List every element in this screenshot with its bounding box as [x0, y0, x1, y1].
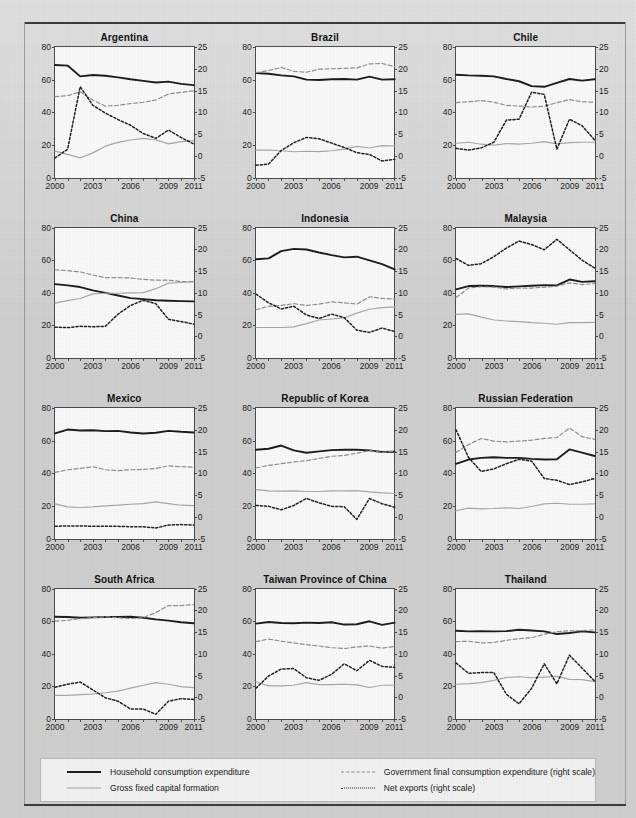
- x-tick: [545, 539, 546, 542]
- series-line: [55, 466, 194, 473]
- y-tick-label-right: 0: [198, 332, 203, 340]
- y-tick-left: [253, 228, 256, 229]
- y-tick-label-right: 20: [198, 606, 207, 614]
- y-tick-right: [394, 156, 397, 157]
- x-tick-label: 2006: [322, 543, 341, 551]
- series-canvas: [55, 228, 194, 359]
- y-tick-left: [453, 621, 456, 622]
- x-tick: [80, 358, 81, 361]
- plot-area: 020406080-505101520252000200320062009201…: [54, 227, 195, 360]
- y-tick-right: [595, 91, 598, 92]
- plot-wrapper: 020406080-505101520252000200320062009201…: [455, 46, 596, 179]
- x-tick: [143, 719, 144, 722]
- x-tick: [319, 178, 320, 181]
- y-tick-label-left: 40: [443, 289, 452, 297]
- y-tick-label-right: 25: [198, 224, 207, 232]
- y-tick-left: [52, 654, 55, 655]
- x-tick: [557, 358, 558, 361]
- y-tick-right: [595, 408, 598, 409]
- series-line: [256, 498, 395, 519]
- legend-label: Government final consumption expenditure…: [384, 767, 595, 777]
- x-tick-label: 2011: [586, 362, 604, 370]
- y-tick-label-right: 15: [198, 87, 207, 95]
- y-tick-right: [394, 69, 397, 70]
- x-tick-label: 2009: [159, 543, 178, 551]
- x-tick: [68, 539, 69, 542]
- y-tick-right: [595, 452, 598, 453]
- y-tick-right: [595, 589, 598, 590]
- y-tick-left: [253, 112, 256, 113]
- plot-wrapper: 020406080-505101520252000200320062009201…: [54, 407, 195, 540]
- y-tick-label-right: 0: [599, 693, 604, 701]
- series-line: [55, 525, 194, 528]
- y-tick-label-right: 0: [398, 693, 403, 701]
- y-tick-left: [253, 47, 256, 48]
- x-tick: [507, 358, 508, 361]
- x-tick: [382, 178, 383, 181]
- y-tick-left: [453, 473, 456, 474]
- chart-panel: South Africa020406080-505101520252000200…: [24, 570, 225, 751]
- series-line: [456, 428, 595, 452]
- x-tick: [268, 358, 269, 361]
- series-line: [55, 682, 194, 714]
- y-tick-left: [253, 506, 256, 507]
- chart-legend: Household consumption expenditureGovernm…: [40, 758, 596, 802]
- x-tick: [545, 719, 546, 722]
- x-tick-label: 2003: [83, 362, 102, 370]
- y-tick-label-left: 60: [42, 437, 51, 445]
- y-tick-label-right: 20: [599, 65, 608, 73]
- x-tick-label: 2000: [447, 723, 466, 731]
- plot-wrapper: 020406080-505101520252000200320062009201…: [255, 588, 396, 721]
- y-tick-label-right: 10: [599, 108, 608, 116]
- x-tick: [344, 358, 345, 361]
- y-tick-label-left: 60: [443, 617, 452, 625]
- y-tick-left: [453, 112, 456, 113]
- y-tick-right: [394, 589, 397, 590]
- panel-grid: Argentina020406080-505101520252000200320…: [24, 28, 626, 750]
- plot-wrapper: 020406080-505101520252000200320062009201…: [54, 588, 195, 721]
- y-tick-right: [595, 632, 598, 633]
- x-tick-label: 2003: [284, 182, 303, 190]
- plot-wrapper: 020406080-505101520252000200320062009201…: [255, 227, 396, 360]
- y-tick-right: [394, 336, 397, 337]
- y-tick-left: [52, 621, 55, 622]
- y-tick-left: [52, 473, 55, 474]
- y-tick-label-left: 60: [242, 76, 251, 84]
- x-tick: [482, 719, 483, 722]
- x-tick: [105, 358, 106, 361]
- y-tick-label-left: 80: [42, 404, 51, 412]
- y-tick-label-right: 10: [198, 650, 207, 658]
- series-line: [256, 639, 395, 649]
- x-tick: [319, 358, 320, 361]
- series-canvas: [55, 589, 194, 720]
- x-tick-label: 2000: [246, 362, 265, 370]
- y-tick-label-right: 25: [398, 43, 407, 51]
- panel-title: Russian Federation: [425, 393, 626, 404]
- x-tick: [105, 178, 106, 181]
- x-tick: [482, 358, 483, 361]
- panel-title: Taiwan Province of China: [225, 574, 426, 585]
- y-tick-right: [194, 589, 197, 590]
- series-line: [256, 146, 395, 152]
- y-tick-label-right: 20: [198, 65, 207, 73]
- x-tick: [181, 539, 182, 542]
- y-tick-label-right: 20: [599, 245, 608, 253]
- x-tick: [281, 178, 282, 181]
- series-line: [55, 682, 194, 695]
- y-tick-label-left: 20: [42, 502, 51, 510]
- legend-label: Household consumption expenditure: [110, 767, 250, 777]
- x-tick-label: 2011: [385, 723, 403, 731]
- y-tick-left: [253, 145, 256, 146]
- y-tick-label-left: 40: [242, 650, 251, 658]
- y-tick-left: [253, 441, 256, 442]
- y-tick-left: [253, 325, 256, 326]
- y-tick-label-right: 25: [398, 224, 407, 232]
- y-tick-label-left: 40: [443, 108, 452, 116]
- y-tick-right: [394, 610, 397, 611]
- y-tick-label-right: 15: [398, 628, 407, 636]
- x-tick: [507, 178, 508, 181]
- x-tick: [519, 719, 520, 722]
- panel-title: South Africa: [24, 574, 225, 585]
- x-tick: [357, 539, 358, 542]
- panel-title: Republic of Korea: [225, 393, 426, 404]
